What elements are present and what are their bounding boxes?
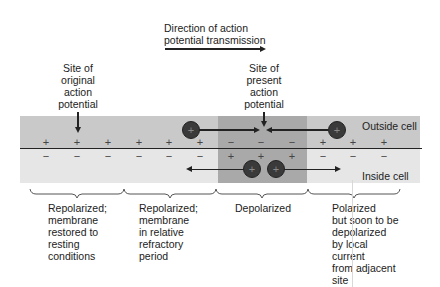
label-line: Repolarized; xyxy=(139,202,198,214)
charge-outside: + xyxy=(318,137,328,148)
original-site-arrowhead-icon xyxy=(75,127,81,133)
label-line: present xyxy=(239,74,289,86)
charge-outside: + xyxy=(348,137,358,148)
current-arrow-outside-right xyxy=(272,129,328,131)
charge-outside: − xyxy=(256,137,266,148)
charge-inside: − xyxy=(41,151,51,162)
positive-ion-icon: + xyxy=(328,121,346,139)
arrowhead-right-icon xyxy=(254,127,260,133)
charge-inside: + xyxy=(226,151,236,162)
region-label-repolarized-resting: Repolarized; membrane restored to restin… xyxy=(48,202,107,262)
charge-inside: + xyxy=(287,151,297,162)
charge-outside: + xyxy=(134,137,144,148)
charge-outside: − xyxy=(226,137,236,148)
label-line: Repolarized; xyxy=(48,202,107,214)
label-line: by local xyxy=(332,238,399,250)
charge-inside: − xyxy=(134,151,144,162)
original-site-arrow xyxy=(77,112,79,128)
charge-inside: + xyxy=(256,151,266,162)
label-line: original xyxy=(53,74,103,86)
current-arrow-inside-left xyxy=(192,169,244,171)
label-line: period xyxy=(139,250,198,262)
region-label-repolarized-refractory: Repolarized; membrane in relative refrac… xyxy=(139,202,198,262)
positive-ion-icon: + xyxy=(267,160,285,178)
current-arrow-outside-left xyxy=(199,129,254,131)
label-line: depolarized xyxy=(332,226,399,238)
charge-outside: + xyxy=(379,137,389,148)
direction-arrow xyxy=(165,48,261,50)
charge-inside: − xyxy=(348,151,358,162)
positive-ion-icon: + xyxy=(243,160,261,178)
label-line: action xyxy=(53,86,103,98)
inside-cell-label: Inside cell xyxy=(362,170,409,182)
current-arrow-inside-right xyxy=(284,169,336,171)
charge-inside: − xyxy=(72,151,82,162)
charge-inside: − xyxy=(195,151,205,162)
arrowhead-left-icon xyxy=(266,127,272,133)
label-line: Polarized xyxy=(332,202,399,214)
label-line: membrane xyxy=(139,214,198,226)
charge-outside: − xyxy=(287,137,297,148)
charge-outside: + xyxy=(164,137,174,148)
label-line: Site of xyxy=(53,62,103,74)
label-line: Site of xyxy=(239,62,289,74)
page-fold-line xyxy=(352,180,353,287)
present-site-label: Site of present action potential xyxy=(239,62,289,110)
region-label-depolarized: Depolarized xyxy=(235,202,291,214)
label-line: in relative xyxy=(139,226,198,238)
charge-inside: − xyxy=(103,151,113,162)
label-line: current xyxy=(332,250,399,262)
arrowhead-right-icon xyxy=(335,166,341,172)
label-line: action xyxy=(239,86,289,98)
label-line: resting xyxy=(48,238,107,250)
label-line: membrane xyxy=(48,214,107,226)
charge-outside: + xyxy=(72,137,82,148)
label-line: restored to xyxy=(48,226,107,238)
label-line: conditions xyxy=(48,250,107,262)
positive-ion-icon: + xyxy=(182,121,200,139)
charge-inside: − xyxy=(379,151,389,162)
region-label-polarized-soon: Polarized but soon to be depolarized by … xyxy=(332,202,399,286)
charge-outside: + xyxy=(41,137,51,148)
label-line: but soon to be xyxy=(332,214,399,226)
label-line: from adjacent xyxy=(332,262,399,274)
label-line: Depolarized xyxy=(235,202,291,214)
charge-outside: + xyxy=(195,137,205,148)
label-line: refractory xyxy=(139,238,198,250)
direction-arrowhead-icon xyxy=(260,46,266,52)
transmission-direction-label: Direction of action potential transmissi… xyxy=(164,22,266,46)
original-site-label: Site of original action potential xyxy=(53,62,103,110)
label-line: potential xyxy=(239,98,289,110)
label-line: potential xyxy=(53,98,103,110)
region-braces xyxy=(0,185,440,201)
title-line-2: potential transmission xyxy=(164,34,266,46)
label-line: site xyxy=(332,274,399,286)
charge-outside: + xyxy=(103,137,113,148)
charge-inside: − xyxy=(164,151,174,162)
title-line-1: Direction of action xyxy=(164,22,266,34)
charge-inside: − xyxy=(318,151,328,162)
outside-cell-label: Outside cell xyxy=(362,120,417,132)
